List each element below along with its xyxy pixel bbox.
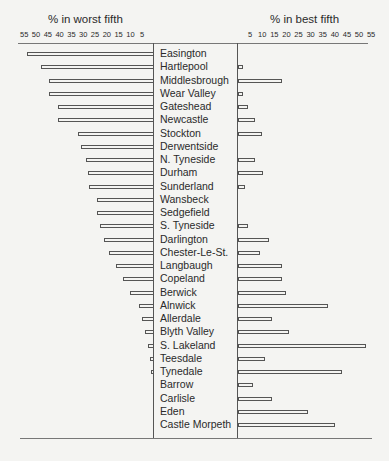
right-tick-label: 55 — [367, 30, 375, 39]
best-fifth-bar — [238, 357, 265, 361]
worst-fifth-bar — [49, 79, 154, 83]
category-label: Blyth Valley — [160, 325, 214, 338]
bottom-axis-line — [20, 438, 372, 439]
worst-fifth-bar — [97, 211, 154, 215]
best-fifth-bar — [238, 224, 248, 228]
worst-fifth-bar — [150, 357, 154, 361]
best-fifth-bar — [238, 238, 269, 242]
category-label: Sedgefield — [160, 206, 210, 219]
category-label: Eden — [160, 405, 185, 418]
worst-fifth-bar — [100, 224, 154, 228]
top-axis-line — [18, 43, 368, 44]
category-label: Allerdale — [160, 312, 201, 325]
right-tick-label: 15 — [270, 30, 278, 39]
category-label: Wear Valley — [160, 87, 216, 100]
worst-fifth-bar — [81, 145, 154, 149]
left-tick-label: 35 — [67, 30, 75, 39]
right-tick-label: 45 — [343, 30, 351, 39]
right-tick-label: 50 — [355, 30, 363, 39]
best-fifth-bar — [238, 118, 255, 122]
category-label: Alnwick — [160, 299, 196, 312]
best-fifth-bar — [238, 304, 328, 308]
right-tick-label: 40 — [331, 30, 339, 39]
category-label: Durham — [160, 166, 197, 179]
right-tick-label: 25 — [294, 30, 302, 39]
best-fifth-bar — [238, 251, 260, 255]
best-fifth-bar — [238, 65, 243, 69]
left-tick-label: 20 — [103, 30, 111, 39]
left-tick-label: 55 — [20, 30, 28, 39]
best-fifth-bar — [238, 330, 289, 334]
worst-fifth-bar — [78, 132, 154, 136]
best-fifth-bar — [238, 410, 308, 414]
right-tick-label: 5 — [248, 30, 252, 39]
left-tick-label: 5 — [140, 30, 144, 39]
best-fifth-bar — [238, 185, 245, 189]
category-label: Derwentside — [160, 140, 218, 153]
worst-fifth-bar — [104, 238, 154, 242]
category-label: Sunderland — [160, 180, 214, 193]
left-tick-label: 45 — [44, 30, 52, 39]
left-tick-label: 40 — [55, 30, 63, 39]
category-label: S. Lakeland — [160, 339, 215, 352]
best-fifth-bar — [238, 158, 255, 162]
category-label: Tynedale — [160, 365, 203, 378]
right-tick-label: 35 — [319, 30, 327, 39]
best-fifth-bar — [238, 171, 263, 175]
worst-fifth-bar — [139, 304, 154, 308]
category-label: Carlisle — [160, 392, 195, 405]
category-label: Barrow — [160, 378, 193, 391]
category-label: Castle Morpeth — [160, 418, 231, 431]
worst-fifth-bar — [41, 65, 154, 69]
category-label: Teesdale — [160, 352, 202, 365]
best-fifth-bar — [238, 132, 262, 136]
best-fifth-bar — [238, 397, 272, 401]
left-tick-label: 50 — [32, 30, 40, 39]
worst-fifth-bar — [142, 317, 154, 321]
worst-fifth-bar — [49, 92, 154, 96]
worst-fifth-bar — [116, 264, 154, 268]
category-label: Newcastle — [160, 113, 208, 126]
best-fifth-bar — [238, 105, 248, 109]
category-label: Hartlepool — [160, 60, 208, 73]
left-tick-label: 15 — [114, 30, 122, 39]
worst-fifth-bar — [130, 291, 154, 295]
category-label: Middlesbrough — [160, 74, 229, 87]
worst-fifth-bar — [148, 344, 154, 348]
best-fifth-bar — [238, 370, 342, 374]
worst-fifth-bar — [145, 330, 154, 334]
best-fifth-bar — [238, 423, 335, 427]
left-tick-label: 10 — [126, 30, 134, 39]
left-axis-title: % in worst fifth — [48, 13, 123, 25]
best-fifth-bar — [238, 344, 366, 348]
worst-fifth-bar — [151, 370, 154, 374]
category-label: Copeland — [160, 272, 205, 285]
worst-fifth-bar — [27, 52, 154, 56]
best-fifth-bar — [238, 79, 282, 83]
category-label: N. Tyneside — [160, 153, 215, 166]
worst-fifth-bar — [97, 198, 154, 202]
right-axis-title: % in best fifth — [270, 13, 339, 25]
left-tick-label: 25 — [91, 30, 99, 39]
category-label: S. Tyneside — [160, 219, 215, 232]
worst-fifth-bar — [89, 185, 154, 189]
category-label: Darlington — [160, 233, 208, 246]
worst-fifth-bar — [58, 118, 154, 122]
category-label: Wansbeck — [160, 193, 209, 206]
best-fifth-bar — [238, 383, 253, 387]
category-label: Chester-Le-St. — [160, 246, 228, 259]
right-tick-label: 20 — [282, 30, 290, 39]
best-fifth-bar — [238, 277, 282, 281]
category-label: Langbaugh — [160, 259, 213, 272]
right-tick-label: 30 — [306, 30, 314, 39]
best-fifth-bar — [238, 317, 272, 321]
best-fifth-bar — [238, 264, 282, 268]
left-tick-label: 30 — [79, 30, 87, 39]
worst-fifth-bar — [86, 158, 154, 162]
right-tick-label: 10 — [258, 30, 266, 39]
worst-fifth-bar — [123, 277, 154, 281]
best-fifth-bar — [238, 291, 286, 295]
best-fifth-bar — [238, 92, 243, 96]
category-label: Berwick — [160, 286, 197, 299]
worst-fifth-bar — [58, 105, 154, 109]
